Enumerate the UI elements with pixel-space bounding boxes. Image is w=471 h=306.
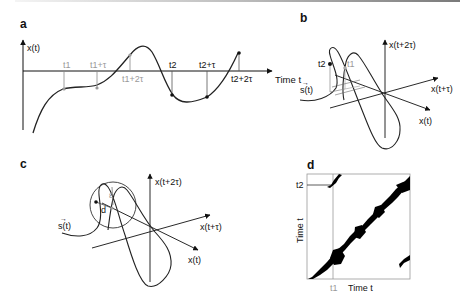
figure-canvas: a x(t) Time t t1 t1+τ t1+2τ t2 t2+τ t2+2… bbox=[0, 0, 471, 306]
panel-d: d t2 t1 Time t Time t bbox=[295, 158, 410, 293]
reference-point bbox=[94, 200, 98, 204]
vector-arrow-icon: → bbox=[302, 79, 309, 86]
projection-line bbox=[332, 80, 360, 87]
trajectory-curve bbox=[62, 184, 171, 287]
t2-2tau-point bbox=[237, 51, 241, 55]
neighbor-point bbox=[111, 207, 114, 210]
panel-d-letter: d bbox=[307, 158, 314, 172]
axis-z-label: x(t+2τ) bbox=[389, 40, 416, 50]
trajectory-label: s(t) bbox=[58, 221, 71, 231]
axis-z-label: x(t+2τ) bbox=[155, 177, 182, 187]
t1-2tau-point bbox=[128, 53, 131, 56]
distance-label: d bbox=[101, 205, 106, 215]
axis-x-label: x(t) bbox=[188, 255, 201, 265]
y-axis-label: Time t bbox=[295, 218, 305, 243]
x-axis-label: Time t bbox=[275, 74, 301, 85]
tick-t1: t1 bbox=[63, 60, 71, 70]
tick-t2: t2 bbox=[296, 180, 304, 190]
point-t2 bbox=[328, 62, 332, 66]
vector-arrow-icon: → bbox=[60, 215, 67, 222]
t1-point bbox=[62, 87, 65, 90]
axis-y-label: x(t+τ) bbox=[431, 84, 453, 94]
axis-y-label: x(t+τ) bbox=[200, 222, 222, 232]
panel-a: a x(t) Time t t1 t1+τ t1+2τ t2 t2+τ t2+2… bbox=[20, 17, 301, 133]
tick-t2-tau: t2+τ bbox=[199, 60, 216, 70]
panel-a-letter: a bbox=[20, 17, 27, 31]
tick-t1-2tau: t1+2τ bbox=[122, 74, 144, 84]
trajectory-label: s(t) bbox=[300, 85, 313, 95]
recurrence-points bbox=[308, 174, 410, 279]
axis-x-label: x(t) bbox=[419, 116, 432, 126]
panel-c-letter: c bbox=[20, 157, 27, 171]
tick-t2: t2 bbox=[169, 60, 177, 70]
panel-b-letter: b bbox=[300, 11, 307, 25]
x-axis-label: Time t bbox=[348, 283, 373, 293]
t2-tau-point bbox=[205, 95, 209, 99]
tick-t1-tau: t1+τ bbox=[90, 60, 107, 70]
t2-point bbox=[170, 93, 174, 97]
panel-c: c x(t+2τ) x(t+τ) x(t) ε d s(t) → bbox=[20, 157, 222, 286]
t1-tau-point bbox=[95, 86, 98, 89]
radius-label: ε bbox=[109, 190, 113, 200]
tick-t1: t1 bbox=[330, 283, 338, 293]
tick-t2-2tau: t2+2τ bbox=[231, 74, 253, 84]
axis-x bbox=[335, 75, 430, 110]
point-t2-label: t2 bbox=[318, 59, 326, 69]
y-axis-label: x(t) bbox=[27, 43, 40, 53]
panel-b: b x(t+2τ) x(t+τ) x(t) t2 t1 s(t) → bbox=[300, 11, 453, 149]
point-t1-label: t1 bbox=[347, 59, 355, 69]
